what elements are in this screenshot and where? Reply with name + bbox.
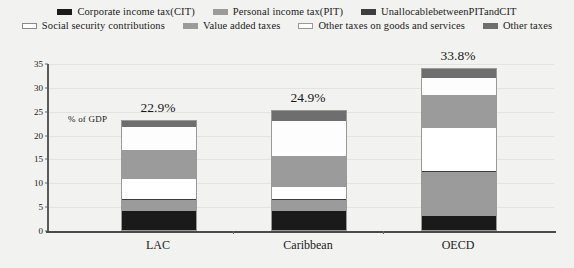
bar-segment <box>272 121 346 156</box>
y-axis-title: % of GDP <box>68 114 107 124</box>
bar-segment <box>272 200 346 210</box>
y-tick-label: 35 <box>34 59 43 69</box>
legend-swatch-unallocable <box>361 9 376 15</box>
bar-segment <box>422 128 496 171</box>
legend-swatch-other <box>483 23 498 29</box>
bar-segment <box>272 111 346 121</box>
legend-item-pit: Personal income tax(PIT) <box>213 6 343 18</box>
legend-item-other: Other taxes <box>483 20 552 32</box>
legend-swatch-pit <box>213 9 228 15</box>
legend-item-unallocable: UnallocablebetweenPITandCIT <box>361 6 517 18</box>
bar-total-label: 24.9% <box>291 90 326 106</box>
legend-label-cit: Corporate income tax(CIT) <box>77 6 194 18</box>
x-axis-line <box>46 231 556 233</box>
legend-label-ssc: Social security contributions <box>42 20 165 32</box>
bar-oecd[interactable] <box>421 68 497 231</box>
bar-segment <box>122 200 196 211</box>
legend-swatch-vat <box>183 23 198 29</box>
y-axis-line <box>47 64 49 231</box>
legend-item-ssc: Social security contributions <box>22 20 165 32</box>
tax-structure-chart: Corporate income tax(CIT) Personal incom… <box>0 0 574 268</box>
y-tick-label: 10 <box>34 178 43 188</box>
bar-segment <box>422 78 496 95</box>
legend-swatch-ssc <box>22 23 37 29</box>
x-tick-mark <box>233 231 234 234</box>
bar-segment <box>122 179 196 199</box>
x-tick-label: LAC <box>146 238 170 253</box>
plot-area: % of GDP 05101520253035 22.9%24.9%33.8% … <box>48 64 554 231</box>
legend-swatch-other-goods <box>298 23 313 29</box>
bar-segment <box>272 211 346 230</box>
bar-segment <box>422 95 496 128</box>
legend-label-unallocable: UnallocablebetweenPITandCIT <box>381 6 517 18</box>
x-tick-mark <box>383 231 384 234</box>
bar-segment <box>422 69 496 79</box>
y-tick-label: 25 <box>34 107 43 117</box>
bar-segment <box>122 211 196 230</box>
x-tick-label: OECD <box>442 238 475 253</box>
bar-segment <box>122 150 196 179</box>
legend-label-vat: Value added taxes <box>203 20 281 32</box>
legend-label-pit: Personal income tax(PIT) <box>233 6 343 18</box>
legend-label-other: Other taxes <box>503 20 552 32</box>
y-tick-label: 30 <box>34 83 43 93</box>
legend-swatch-cit <box>57 9 72 15</box>
legend-row-2: Social security contributions Value adde… <box>13 20 561 32</box>
bar-segment <box>422 172 496 216</box>
bar-segment <box>272 187 346 199</box>
legend-label-other-goods: Other taxes on goods and services <box>318 20 464 32</box>
bar-caribbean[interactable] <box>271 110 347 231</box>
bar-segment <box>122 127 196 151</box>
bar-total-label: 33.8% <box>441 48 476 64</box>
bar-segment <box>422 216 496 230</box>
y-tick-label: 5 <box>39 202 44 212</box>
bar-total-label: 22.9% <box>141 100 176 116</box>
legend-row-1: Corporate income tax(CIT) Personal incom… <box>48 6 525 18</box>
chart-legend: Corporate income tax(CIT) Personal incom… <box>0 6 574 32</box>
legend-item-vat: Value added taxes <box>183 20 281 32</box>
x-tick-label: Caribbean <box>283 238 332 253</box>
bar-segment <box>272 156 346 187</box>
y-tick-label: 20 <box>34 131 43 141</box>
y-tick-label: 0 <box>39 226 44 236</box>
legend-item-other-goods: Other taxes on goods and services <box>298 20 464 32</box>
bar-lac[interactable] <box>121 120 197 231</box>
y-tick-label: 15 <box>34 154 43 164</box>
gridline <box>48 64 554 65</box>
legend-item-cit: Corporate income tax(CIT) <box>57 6 194 18</box>
